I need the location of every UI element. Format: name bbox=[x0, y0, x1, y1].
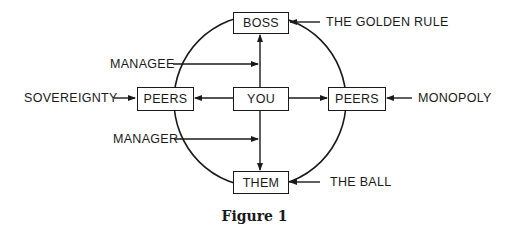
node-them-label: THEM bbox=[243, 176, 280, 190]
label-managee: MANAGEE bbox=[110, 57, 175, 71]
label-monopoly: MONOPOLY bbox=[418, 91, 492, 105]
node-boss: BOSS bbox=[233, 12, 289, 34]
node-peers-right-label: PEERS bbox=[335, 92, 379, 106]
label-manager: MANAGER bbox=[113, 132, 178, 146]
label-sovereignty: SOVEREIGNTY bbox=[24, 91, 118, 105]
node-them: THEM bbox=[233, 171, 289, 194]
diagram-lines bbox=[0, 0, 509, 229]
figure-caption: Figure 1 bbox=[0, 208, 509, 224]
label-the-ball: THE BALL bbox=[330, 175, 391, 189]
node-you-label: YOU bbox=[247, 92, 275, 106]
node-peers-left: PEERS bbox=[137, 87, 194, 111]
node-you: YOU bbox=[233, 87, 289, 111]
node-peers-left-label: PEERS bbox=[144, 92, 188, 106]
node-peers-right: PEERS bbox=[328, 87, 386, 111]
label-golden-rule: THE GOLDEN RULE bbox=[326, 15, 449, 29]
node-boss-label: BOSS bbox=[243, 16, 279, 30]
